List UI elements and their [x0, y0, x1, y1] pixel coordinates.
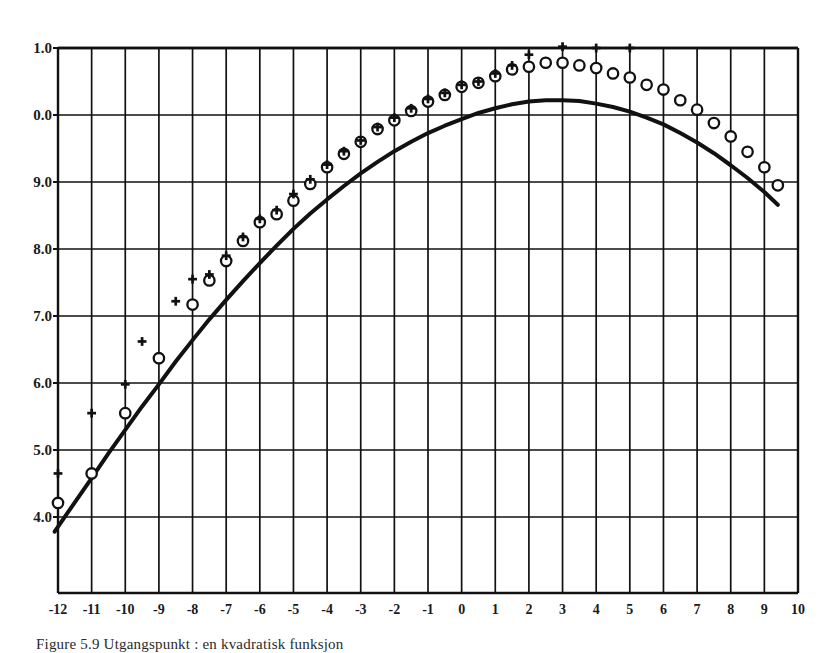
data-point-circle: [742, 147, 752, 157]
x-tick-label: 7: [694, 602, 701, 617]
data-point-circle: [658, 84, 668, 94]
grid-lines: [58, 48, 798, 593]
y-tick-label: 8.0: [33, 241, 52, 257]
x-tick-label: 3: [559, 602, 566, 617]
data-point-circle: [120, 408, 130, 418]
x-tick-label: -11: [83, 602, 101, 617]
data-point-circle: [53, 498, 63, 508]
y-tick-label: 5.0: [33, 442, 52, 458]
x-tick-label: -5: [288, 602, 300, 617]
y-tick-label: 9.0: [33, 174, 52, 190]
data-point-circle: [675, 95, 685, 105]
y-tick-label: 6.0: [33, 375, 52, 391]
y-tick-label: 4.0: [33, 509, 52, 525]
x-tick-label: 1: [492, 602, 499, 617]
x-tick-label: 10: [791, 602, 805, 617]
marker-group-plus: [54, 42, 635, 478]
data-point-circle: [591, 63, 601, 73]
x-tick-label: -4: [321, 602, 333, 617]
marker-group-circle: [53, 58, 783, 509]
data-point-circle: [692, 104, 702, 114]
data-point-circle: [726, 131, 736, 141]
data-point-circle: [541, 58, 551, 68]
x-tick-label: -2: [389, 602, 401, 617]
x-tick-label: -9: [153, 602, 165, 617]
data-point-circle: [608, 68, 618, 78]
data-point-circle: [187, 299, 197, 309]
x-axis-ticks: -12-11-10-9-8-7-6-5-4-3-2-1012345678910: [49, 602, 805, 617]
y-tick-label: 1.0: [33, 40, 52, 56]
data-point-circle: [557, 58, 567, 68]
x-tick-label: -8: [187, 602, 199, 617]
data-point-circle: [759, 162, 769, 172]
x-tick-label: 5: [626, 602, 633, 617]
y-tick-label: 7.0: [33, 308, 52, 324]
x-tick-label: 8: [727, 602, 734, 617]
x-tick-label: 6: [660, 602, 667, 617]
data-point-circle: [574, 60, 584, 70]
x-tick-label: -1: [422, 602, 434, 617]
x-tick-label: -3: [355, 602, 367, 617]
y-tick-label: 0.0: [33, 107, 52, 123]
data-point-circle: [86, 468, 96, 478]
x-tick-label: 0: [458, 602, 465, 617]
x-tick-label: 4: [593, 602, 600, 617]
data-point-circle: [524, 62, 534, 72]
x-tick-label: -10: [116, 602, 135, 617]
data-point-circle: [625, 72, 635, 82]
data-point-circle: [641, 80, 651, 90]
x-tick-label: -7: [220, 602, 232, 617]
y-axis-ticks: 4.05.06.07.08.09.00.01.0: [33, 40, 58, 525]
data-point-circle: [709, 118, 719, 128]
chart-canvas: 4.05.06.07.08.09.00.01.0-12-11-10-9-8-7-…: [0, 0, 832, 653]
figure-caption: Figure 5.9 Utgangspunkt : en kvadratisk …: [36, 636, 816, 653]
x-tick-label: 9: [761, 602, 768, 617]
x-tick-label: -6: [254, 602, 266, 617]
x-tick-label: -12: [49, 602, 68, 617]
data-point-circle: [773, 180, 783, 190]
x-tick-label: 2: [525, 602, 532, 617]
data-point-circle: [154, 353, 164, 363]
figure-container: 4.05.06.07.08.09.00.01.0-12-11-10-9-8-7-…: [0, 0, 832, 653]
